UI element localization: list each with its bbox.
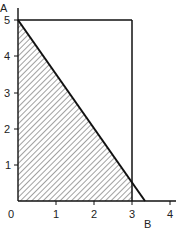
x-tick-label-2: 2: [91, 208, 97, 220]
x-tick-label-0: 0: [8, 208, 14, 220]
y-tick-label-3: 3: [4, 87, 10, 99]
x-tick-label-3: 3: [129, 208, 135, 220]
x-tick-label-1: 1: [53, 208, 59, 220]
y-tick-label-2: 2: [4, 123, 10, 135]
diagram-canvas: A B 5 4 3 2 1 0 1 2 3 4: [0, 0, 179, 235]
shaded-region: [18, 20, 132, 201]
y-axis-label: A: [0, 2, 8, 14]
y-tick-label-4: 4: [4, 50, 10, 62]
y-tick-label-1: 1: [5, 159, 11, 171]
y-tick-label-5: 5: [4, 14, 10, 26]
x-axis-label: B: [144, 218, 151, 230]
x-tick-label-4: 4: [167, 208, 173, 220]
